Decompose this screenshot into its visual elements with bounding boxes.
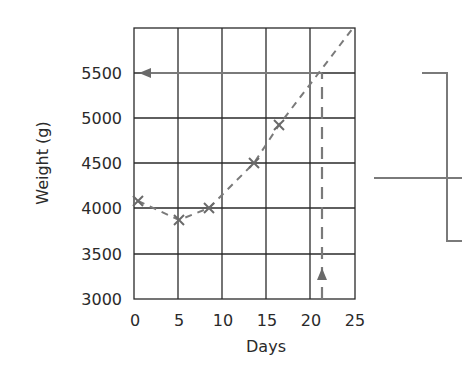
x-tick: 20 bbox=[301, 311, 321, 330]
y-tick: 5500 bbox=[81, 64, 122, 83]
y-axis-ticks: 5500 5000 4500 4000 3500 3000 bbox=[81, 64, 122, 309]
y-tick: 4500 bbox=[81, 154, 122, 173]
x-tick: 15 bbox=[257, 311, 277, 330]
right-bracket bbox=[374, 73, 462, 241]
arrow-up-icon bbox=[317, 268, 327, 280]
x-tick: 5 bbox=[174, 311, 184, 330]
arrow-left-icon bbox=[139, 68, 151, 78]
x-tick: 10 bbox=[213, 311, 233, 330]
x-tick: 25 bbox=[345, 311, 365, 330]
chart-canvas: 5500 5000 4500 4000 3500 3000 0 5 10 15 … bbox=[0, 0, 462, 376]
y-tick: 4000 bbox=[81, 199, 122, 218]
x-tick: 0 bbox=[130, 311, 140, 330]
y-tick: 3500 bbox=[81, 245, 122, 264]
y-tick: 3000 bbox=[81, 290, 122, 309]
vertical-dashed-arrow bbox=[317, 73, 327, 299]
x-axis-label: Days bbox=[246, 337, 286, 356]
y-axis-label: Weight (g) bbox=[33, 121, 52, 204]
x-marker-icon bbox=[174, 215, 184, 225]
x-marker-icon bbox=[274, 120, 284, 130]
x-axis-ticks: 0 5 10 15 20 25 bbox=[130, 311, 365, 330]
data-series-weight bbox=[138, 28, 353, 220]
horizontal-arrow bbox=[139, 68, 322, 78]
y-tick: 5000 bbox=[81, 109, 122, 128]
